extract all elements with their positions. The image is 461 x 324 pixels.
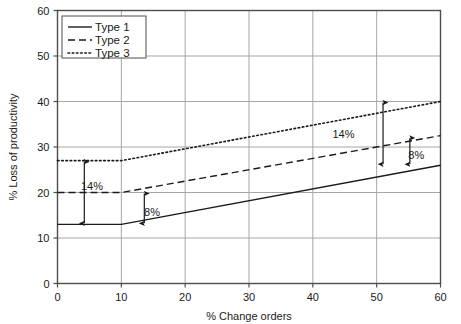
y-tick-label: 0 [43,278,49,290]
x-axis-title: % Change orders [206,310,292,322]
x-tick-label: 20 [179,291,191,303]
y-tick-label: 60 [37,5,49,17]
chart-container: 0102030405060 0102030405060 % Change ord… [0,0,461,324]
legend: Type 1Type 2Type 3 [62,16,146,59]
y-tick-label: 40 [37,96,49,108]
y-axis-title: % Loss of productivity [7,93,19,200]
legend-label-type-1: Type 1 [95,21,130,33]
x-tick-label: 0 [54,291,60,303]
productivity-loss-line-chart: 0102030405060 0102030405060 % Change ord… [0,0,461,324]
annotation-label: 8% [144,206,160,218]
legend-label-type-3: Type 3 [95,47,130,59]
x-tick-label: 50 [371,291,383,303]
annotation-label: 14% [332,128,354,140]
annotation-label: 8% [408,149,424,161]
y-tick-label: 20 [37,187,49,199]
y-tick-label: 50 [37,50,49,62]
annotation-label: 14% [81,180,103,192]
y-tick-label: 10 [37,232,49,244]
legend-label-type-2: Type 2 [95,34,130,46]
y-tick-label: 30 [37,141,49,153]
x-tick-label: 40 [307,291,319,303]
x-tick-label: 60 [434,291,446,303]
x-tick-label: 30 [243,291,255,303]
x-tick-label: 10 [115,291,127,303]
